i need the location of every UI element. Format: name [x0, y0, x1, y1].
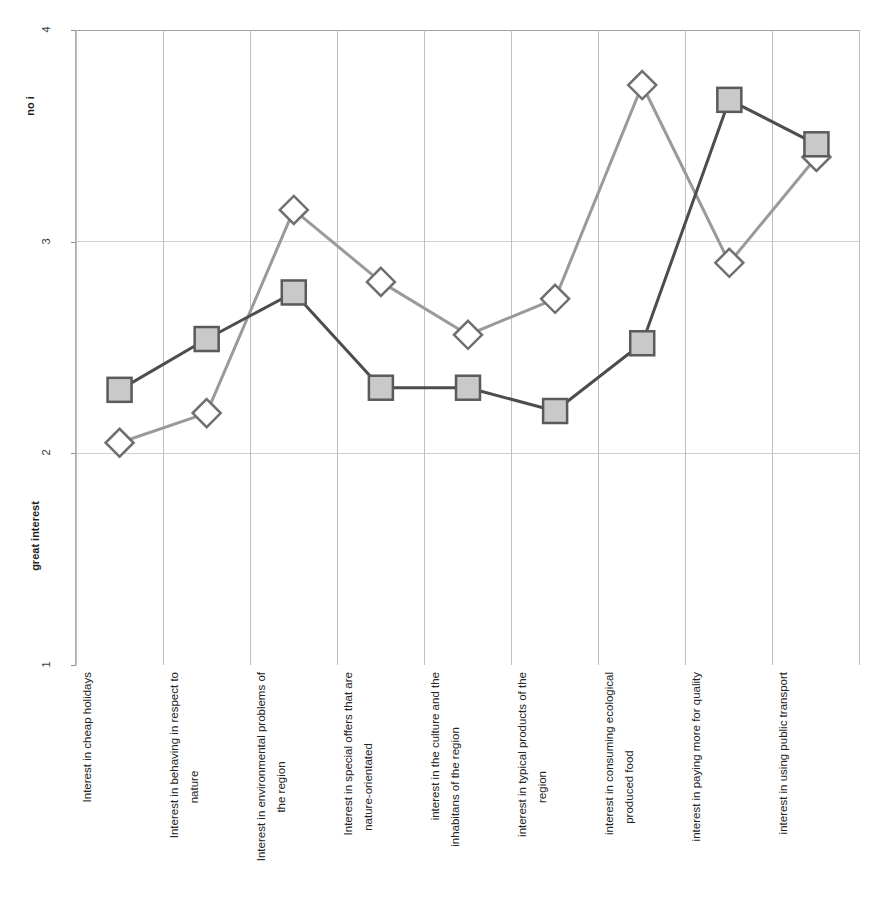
data-point-square: [108, 378, 132, 402]
data-point-diamond: [454, 321, 482, 349]
x-axis-label: interest in paying more for quality: [686, 672, 772, 902]
x-axis-label-line: inhabitans of the region: [445, 672, 465, 902]
plot-svg: [76, 30, 860, 665]
plot-area: [76, 30, 860, 665]
x-axis-label-line: region: [532, 672, 552, 902]
y-axis-caption-bottom: great interest: [29, 496, 41, 576]
data-point-square: [369, 376, 393, 400]
data-point-square: [717, 88, 741, 112]
x-axis-label-line: interest in the culture and the: [425, 672, 445, 902]
y-tick-mark: [71, 453, 76, 454]
x-axis-label: interest in consuming ecologicalproduced…: [599, 672, 685, 902]
data-point-diamond: [628, 71, 656, 99]
x-axis-label-line: Interest in cheap holidays: [77, 672, 97, 902]
x-axis-label: Interest in cheap holidays: [77, 672, 163, 902]
y-tick-mark: [71, 665, 76, 666]
x-axis-label: interest in typical products of theregio…: [512, 672, 598, 902]
y-tick-label: 2: [41, 441, 52, 465]
x-axis-label-line: the region: [271, 672, 291, 902]
x-axis-label-line: interest in using public transport: [773, 672, 793, 902]
y-tick-mark: [71, 242, 76, 243]
cropped-title-remnant: [0, 0, 880, 2]
y-axis-caption-top: no i: [24, 86, 36, 126]
x-axis-label: Interest in special offers that arenatur…: [338, 672, 424, 902]
data-point-diamond: [541, 285, 569, 313]
x-axis-label-line: nature-orientated: [358, 672, 378, 902]
y-tick-mark: [71, 30, 76, 31]
x-axis-label-line: interest in paying more for quality: [686, 672, 706, 902]
x-axis-label-line: interest in typical products of the: [512, 672, 532, 902]
data-point-square: [630, 331, 654, 355]
y-tick-label: 1: [41, 653, 52, 677]
x-axis-label: interest in the culture and theinhabitan…: [425, 672, 511, 902]
x-axis-label-line: nature: [184, 672, 204, 902]
x-axis-label-line: interest in consuming ecological: [599, 672, 619, 902]
y-tick-label: 4: [41, 18, 52, 42]
x-axis-label-line: Interest in behaving in respect to: [164, 672, 184, 902]
x-axis-label: interest in using public transport: [773, 672, 859, 902]
x-axis-label-line: Interest in special offers that are: [338, 672, 358, 902]
data-point-square: [282, 280, 306, 304]
x-axis-label-line: Interest in environmental problems of: [251, 672, 271, 902]
data-point-square: [456, 376, 480, 400]
data-point-diamond: [193, 399, 221, 427]
chart-figure: 1234 Interest in cheap holidaysInterest …: [0, 0, 880, 912]
data-point-square: [195, 327, 219, 351]
y-tick-label: 3: [41, 229, 52, 253]
series-line-square: [120, 100, 817, 411]
x-axis-label: Interest in environmental problems ofthe…: [251, 672, 337, 902]
data-point-diamond: [106, 429, 134, 457]
x-axis-label-line: produced food: [619, 672, 639, 902]
data-point-square: [543, 399, 567, 423]
data-point-square: [804, 132, 828, 156]
x-axis-label: Interest in behaving in respect tonature: [164, 672, 250, 902]
